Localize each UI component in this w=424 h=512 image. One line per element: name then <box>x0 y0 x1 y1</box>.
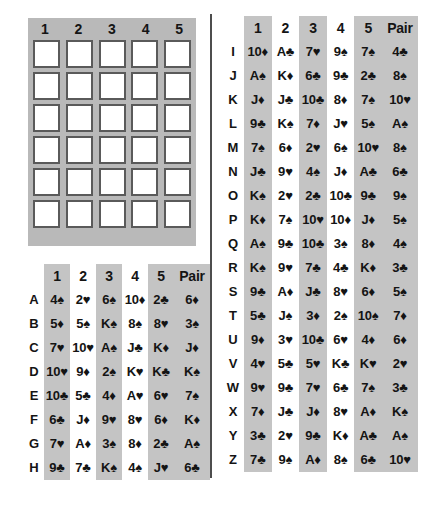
card-cell: K♠ <box>174 360 210 384</box>
card-cell: 10♦ <box>122 288 148 312</box>
card-cell: K♠ <box>244 256 272 280</box>
card-table-left-col-header-2: 2 <box>70 264 96 288</box>
card-cell: 10♥ <box>382 448 418 472</box>
card-table-left-col-header-3: 3 <box>96 264 122 288</box>
answer-grid-cell[interactable] <box>99 104 126 132</box>
answer-grid-cell[interactable] <box>99 136 126 164</box>
card-cell: J♦ <box>244 88 272 112</box>
card-cell: 6♣ <box>299 64 327 88</box>
table-row: S9♣A♦J♣8♥6♦5♠ <box>222 280 418 304</box>
answer-grid-cell[interactable] <box>66 136 93 164</box>
answer-grid-cell[interactable] <box>33 136 60 164</box>
table-row: JA♠K♦6♣9♣2♣8♠ <box>222 64 418 88</box>
card-cell: K♦ <box>148 336 174 360</box>
table-row: U9♦3♥10♣6♥4♦6♦ <box>222 328 418 352</box>
card-table-left-header-corner <box>24 264 44 288</box>
card-table-right-row-label-j: J <box>222 64 244 88</box>
card-table-left: 12345PairA4♠2♥6♠10♦2♣6♦B5♦5♠K♠8♠8♥3♠C7♥1… <box>24 264 210 480</box>
card-table-left-row-label-h: H <box>24 456 44 480</box>
card-cell: 7♠ <box>354 376 382 400</box>
card-cell: 7♥ <box>299 376 327 400</box>
card-cell: 7♣ <box>244 448 272 472</box>
card-cell: 5♥ <box>299 352 327 376</box>
table-row: RK♠9♥7♣4♣K♦3♣ <box>222 256 418 280</box>
card-cell: 7♥ <box>299 40 327 64</box>
card-cell: 9♥ <box>272 256 300 280</box>
answer-grid-cell[interactable] <box>164 104 191 132</box>
card-cell: 10♥ <box>44 360 70 384</box>
answer-grid-cell[interactable] <box>33 40 60 68</box>
answer-grid-cell[interactable] <box>66 72 93 100</box>
card-cell: 9♣ <box>44 456 70 480</box>
card-cell: 2♣ <box>354 64 382 88</box>
card-cell: K♦ <box>354 256 382 280</box>
answer-grid-col-header-1: 1 <box>28 18 62 40</box>
card-cell: 6♣ <box>354 448 382 472</box>
table-row: X7♦J♣J♦8♥A♦K♠ <box>222 400 418 424</box>
card-cell: A♠ <box>244 232 272 256</box>
card-table-right-row-label-v: V <box>222 352 244 376</box>
card-cell: 3♥ <box>272 328 300 352</box>
answer-grid-cell[interactable] <box>164 136 191 164</box>
table-row: NJ♣9♥4♠J♦A♣6♣ <box>222 160 418 184</box>
card-cell: A♠ <box>382 424 418 448</box>
card-cell: 10♥ <box>382 88 418 112</box>
answer-grid-cell[interactable] <box>66 104 93 132</box>
card-cell: 6♦ <box>354 280 382 304</box>
card-cell: J♠ <box>272 304 300 328</box>
answer-grid-cell[interactable] <box>131 104 158 132</box>
card-cell: K♣ <box>148 360 174 384</box>
answer-grid-cell[interactable] <box>33 72 60 100</box>
table-row: G7♥A♦3♠8♦2♣A♠ <box>24 432 210 456</box>
answer-grid-col-header-4: 4 <box>129 18 163 40</box>
card-cell: 2♣ <box>148 288 174 312</box>
card-cell: 8♥ <box>148 312 174 336</box>
answer-grid-cell[interactable] <box>131 168 158 196</box>
answer-grid-cell[interactable] <box>99 40 126 68</box>
card-cell: K♥ <box>122 360 148 384</box>
card-cell: 5♣ <box>70 384 96 408</box>
card-table-left-row-label-d: D <box>24 360 44 384</box>
answer-grid-cell[interactable] <box>33 168 60 196</box>
card-cell: 5♠ <box>382 280 418 304</box>
panel-divider <box>210 14 212 478</box>
card-cell: 6♥ <box>327 328 355 352</box>
answer-grid-cell[interactable] <box>66 200 93 228</box>
card-cell: J♣ <box>272 400 300 424</box>
answer-grid-cell[interactable] <box>66 40 93 68</box>
card-cell: A♦ <box>354 400 382 424</box>
table-row: B5♦5♠K♠8♠8♥3♠ <box>24 312 210 336</box>
card-cell: 6♣ <box>44 408 70 432</box>
answer-grid-cell[interactable] <box>164 200 191 228</box>
card-cell: 7♥ <box>44 432 70 456</box>
answer-grid-cell[interactable] <box>33 104 60 132</box>
answer-grid-cell[interactable] <box>164 40 191 68</box>
card-cell: K♣ <box>327 352 355 376</box>
card-cell: 10♥ <box>299 208 327 232</box>
answer-grid-cell[interactable] <box>66 168 93 196</box>
answer-grid-cell[interactable] <box>131 72 158 100</box>
card-table-right-row-label-w: W <box>222 376 244 400</box>
card-cell: K♠ <box>382 400 418 424</box>
card-table-right-row-label-r: R <box>222 256 244 280</box>
answer-grid-cell[interactable] <box>33 200 60 228</box>
card-table-right: 12345PairI10♦A♣7♥9♠7♠4♣JA♠K♦6♣9♣2♣8♠KJ♦J… <box>222 16 418 472</box>
card-cell: 2♥ <box>299 136 327 160</box>
card-cell: A♦ <box>299 448 327 472</box>
answer-grid-cell[interactable] <box>99 200 126 228</box>
answer-grid-cell[interactable] <box>164 72 191 100</box>
answer-grid-cell[interactable] <box>164 168 191 196</box>
answer-grid-cell[interactable] <box>131 40 158 68</box>
answer-grid-cell[interactable] <box>99 168 126 196</box>
card-cell: 6♣ <box>327 376 355 400</box>
card-cell: 5♠ <box>354 112 382 136</box>
card-cell: 9♣ <box>244 280 272 304</box>
answer-grid-cell[interactable] <box>131 136 158 164</box>
card-cell: J♣ <box>122 336 148 360</box>
answer-grid-body <box>28 40 196 233</box>
card-cell: 5♠ <box>70 312 96 336</box>
card-cell: 9♠ <box>272 448 300 472</box>
card-table-left-header-row: 12345Pair <box>24 264 210 288</box>
answer-grid-cell[interactable] <box>99 72 126 100</box>
answer-grid-cell[interactable] <box>131 200 158 228</box>
